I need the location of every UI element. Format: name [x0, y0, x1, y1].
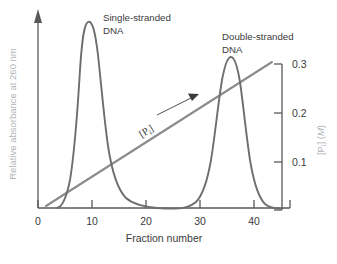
- double-stranded-dna-label-line2: DNA: [222, 44, 243, 55]
- double-stranded-dna-label-line1: Double-stranded: [222, 31, 294, 42]
- y2-axis-title-open: [P: [315, 146, 326, 155]
- y-axis-title: Relative absorbance at 260 nm: [7, 48, 18, 180]
- xtick-label-10: 10: [86, 215, 98, 227]
- xtick-label-0: 0: [35, 215, 41, 227]
- y2-axis-title: [Pi] (M): [315, 125, 327, 155]
- y2tick-label-01: 0.1: [292, 156, 307, 168]
- chart-figure: 0 10 20 30 40 0.3 0.2 0.1 Fraction numbe…: [0, 0, 337, 264]
- chart-canvas: 0 10 20 30 40 0.3 0.2 0.1 Fraction numbe…: [0, 0, 337, 264]
- absorbance-curve-series: [57, 22, 280, 209]
- y2tick-label-02: 0.2: [292, 107, 307, 119]
- y2tick-label-03: 0.3: [292, 58, 307, 70]
- y-axis-right: [274, 64, 282, 210]
- y2-axis-title-unit: M: [315, 128, 326, 136]
- xtick-label-30: 30: [194, 215, 206, 227]
- x-axis: [38, 200, 290, 208]
- svg-text:[Pi] (M): [Pi] (M): [315, 125, 327, 155]
- y-axis-left: [34, 9, 42, 208]
- y-axis-arrow-icon: [34, 9, 42, 23]
- x-axis-title: Fraction number: [126, 232, 203, 244]
- xtick-label-40: 40: [248, 215, 260, 227]
- xtick-label-20: 20: [140, 215, 152, 227]
- single-stranded-dna-label-line2: DNA: [103, 25, 124, 36]
- y2-axis-title-close: ): [315, 125, 326, 128]
- single-stranded-dna-label: Single-stranded DNA: [103, 12, 171, 36]
- single-stranded-dna-label-line1: Single-stranded: [103, 12, 171, 23]
- double-stranded-dna-label: Double-stranded DNA: [222, 31, 294, 55]
